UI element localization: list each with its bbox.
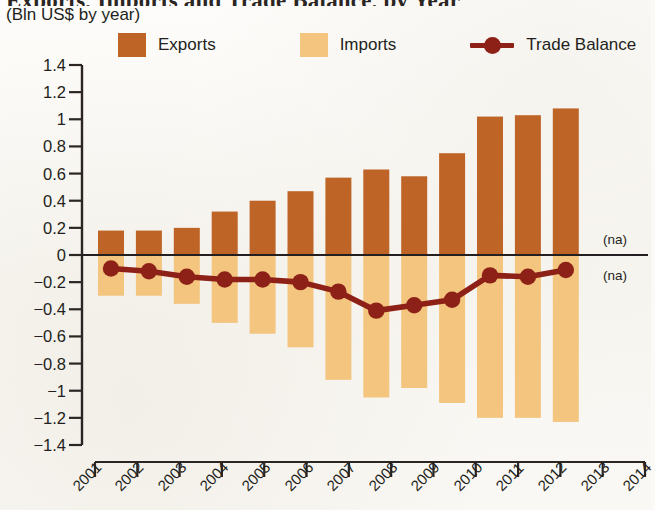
- bar-exports: [98, 231, 124, 255]
- marker-trade-balance: [254, 271, 270, 287]
- marker-trade-balance: [406, 297, 422, 313]
- bar-exports: [288, 191, 314, 255]
- legend-swatch-exports-icon: [118, 33, 146, 57]
- marker-trade-balance: [482, 267, 498, 283]
- y-axis-tick-label: −0.6: [20, 327, 66, 346]
- x-axis-tick-label: 2008: [365, 458, 401, 494]
- legend-swatch-imports-icon: [300, 33, 328, 57]
- bar-imports: [477, 255, 503, 418]
- marker-trade-balance: [292, 274, 308, 290]
- legend-item-exports: Exports: [118, 33, 216, 57]
- bar-exports: [363, 170, 389, 256]
- marker-trade-balance: [368, 302, 384, 318]
- bar-imports: [515, 255, 541, 418]
- legend-line-marker-icon: [470, 34, 514, 56]
- x-axis-tick-label: 2014: [619, 458, 655, 494]
- bar-imports: [174, 255, 200, 304]
- marker-trade-balance: [444, 292, 460, 308]
- marker-trade-balance: [103, 260, 119, 276]
- y-axis-tick-label: 1.4: [20, 56, 66, 75]
- marker-trade-balance: [179, 269, 195, 285]
- x-axis-tick-label: 2004: [196, 458, 232, 494]
- na-label: (na): [603, 268, 627, 283]
- x-axis-tick-label: 2009: [407, 458, 443, 494]
- legend-circle-marker-icon: [484, 37, 501, 54]
- line-trade-balance: [111, 269, 566, 311]
- bar-imports: [439, 255, 465, 403]
- marker-trade-balance: [217, 271, 233, 287]
- y-axis-tick-label: 0.6: [20, 164, 66, 183]
- bar-exports: [401, 176, 427, 255]
- y-axis-tick-label: 1: [20, 110, 66, 129]
- bar-imports: [553, 255, 579, 422]
- x-axis-tick-label: 2003: [154, 458, 190, 494]
- marker-trade-balance: [330, 283, 346, 299]
- bar-imports: [325, 255, 351, 380]
- bar-imports: [250, 255, 276, 334]
- x-axis-tick-label: 2013: [577, 458, 613, 494]
- x-axis-tick-label: 2012: [534, 458, 570, 494]
- bar-exports: [212, 212, 238, 255]
- bar-exports: [439, 153, 465, 255]
- bar-imports: [363, 255, 389, 398]
- bar-exports: [174, 228, 200, 255]
- bar-exports: [477, 117, 503, 255]
- x-axis-tick-label: 2006: [281, 458, 317, 494]
- bar-exports: [515, 115, 541, 255]
- y-axis-tick-label: −0.8: [20, 354, 66, 373]
- legend-label-exports: Exports: [158, 35, 216, 55]
- y-axis-tick-label: −0.4: [20, 300, 66, 319]
- x-axis-tick-label: 2002: [111, 458, 147, 494]
- x-axis-tick-label: 2001: [69, 458, 105, 494]
- bar-imports: [288, 255, 314, 347]
- bar-imports: [136, 255, 162, 296]
- chart-subtitle: (Bln US$ by year): [6, 5, 140, 25]
- legend-item-imports: Imports: [300, 33, 397, 57]
- x-axis-tick-label: 2005: [238, 458, 274, 494]
- marker-trade-balance: [141, 263, 157, 279]
- bar-imports: [212, 255, 238, 323]
- y-axis-tick-label: 0.8: [20, 137, 66, 156]
- y-axis-tick-label: −0.2: [20, 273, 66, 292]
- bar-exports: [553, 108, 579, 255]
- bar-exports: [325, 178, 351, 255]
- na-label: (na): [603, 232, 627, 247]
- y-axis-tick-label: −1.2: [20, 408, 66, 427]
- x-axis-tick-label: 2011: [492, 459, 527, 494]
- chart-legend: Exports Imports Trade Balance: [118, 33, 636, 57]
- legend-label-trade-balance: Trade Balance: [526, 35, 636, 55]
- bar-imports: [98, 255, 124, 296]
- y-axis-tick-label: −1: [20, 381, 66, 400]
- y-axis-tick-label: 0.4: [20, 191, 66, 210]
- bar-exports: [250, 201, 276, 255]
- legend-item-trade-balance: Trade Balance: [470, 34, 636, 56]
- y-axis-tick-label: 1.2: [20, 83, 66, 102]
- y-axis-tick-label: −1.4: [20, 436, 66, 455]
- bar-exports: [136, 231, 162, 255]
- x-axis-tick-label: 2007: [323, 458, 359, 494]
- marker-trade-balance: [520, 269, 536, 285]
- marker-trade-balance: [558, 262, 574, 278]
- legend-label-imports: Imports: [340, 35, 397, 55]
- x-axis-tick-label: 2010: [450, 458, 486, 494]
- y-axis-tick-label: 0: [20, 246, 66, 265]
- y-axis-tick-label: 0.2: [20, 218, 66, 237]
- bar-imports: [401, 255, 427, 388]
